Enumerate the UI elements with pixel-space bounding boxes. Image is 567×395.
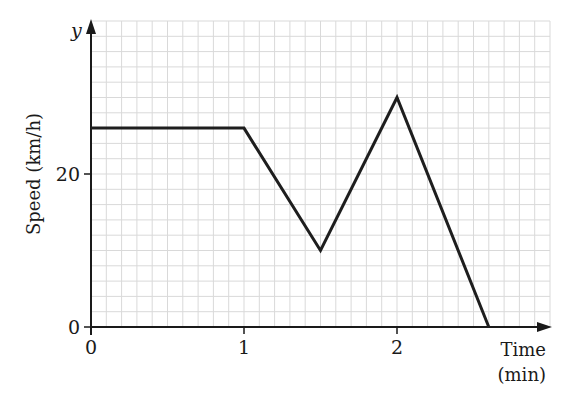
y-tick-label: 0 xyxy=(68,316,80,338)
x-axis-label-line-1: Time xyxy=(501,339,546,360)
x-tick-label: 2 xyxy=(391,336,403,358)
y-axis-label: Speed (km/h) xyxy=(23,113,44,235)
x-axis-label-line-2: (min) xyxy=(498,364,546,385)
grid xyxy=(91,21,550,327)
y-tick-label: 20 xyxy=(56,163,80,185)
y-axis-symbol: y xyxy=(70,19,82,41)
x-tick-label: 1 xyxy=(238,336,250,358)
x-tick-label: 0 xyxy=(85,336,97,358)
speed-time-chart: 012020 y Speed (km/h) Time (min) xyxy=(0,0,567,395)
